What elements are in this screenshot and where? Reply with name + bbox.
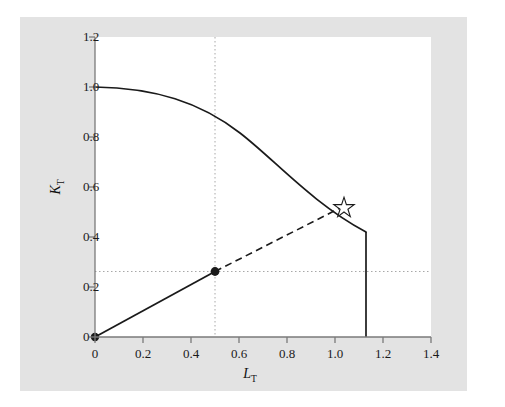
x-tick-label-7: 1.4 [423,346,439,362]
x-tick-label-2: 0.4 [183,346,199,362]
figure-container: 0 0.2 0.4 0.6 0.8 1.0 1.2 0 0.2 0.4 0.6 … [0,0,505,407]
x-axis-title: LT [243,366,257,384]
x-tick-label-4: 0.8 [279,346,295,362]
interior-point-marker [211,267,220,276]
y-axis-title-subscript: T [56,179,66,185]
x-axis-title-subscript: T [251,374,257,384]
x-tick-label-3: 0.6 [231,346,247,362]
y-axis-title-main: K [48,185,63,194]
plot-area-background [95,37,431,337]
x-tick-label-6: 1.2 [375,346,391,362]
x-tick-label-1: 0.2 [135,346,151,362]
x-tick-label-5: 1.0 [327,346,343,362]
x-axis-ticks [95,337,431,343]
x-axis-title-main: L [243,366,251,381]
x-tick-label-0: 0 [92,346,99,362]
y-axis-title: KT [48,179,66,194]
